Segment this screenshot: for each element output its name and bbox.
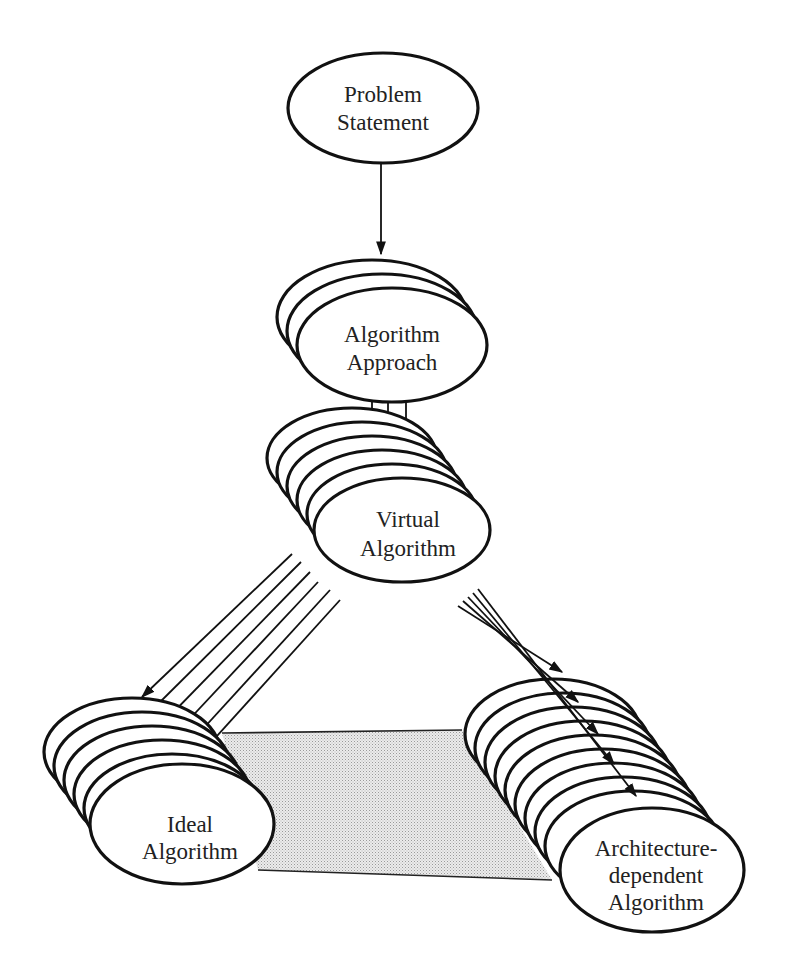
node-label: Ideal [167,812,213,837]
node-label: Problem [344,82,422,107]
node-algorithm-approach[interactable]: Algorithm Approach [277,260,487,402]
node-architecture-dependent-algorithm[interactable]: Architecture- dependent Algorithm [465,679,744,932]
node-label: Algorithm [360,536,456,561]
node-label: Approach [347,350,438,375]
node-problem-statement[interactable]: Problem Statement [288,53,478,163]
node-virtual-algorithm[interactable]: Virtual Algorithm [267,408,490,582]
node-ideal-algorithm[interactable]: Ideal Algorithm [44,698,274,884]
node-label: Algorithm [608,890,704,915]
node-label: Algorithm [344,322,440,347]
node-label: Architecture- [595,836,718,861]
node-label: Statement [337,110,430,135]
process-diagram: Problem Statement Algorithm Approach Vir… [0,0,785,977]
node-label: dependent [609,863,704,888]
node-label: Algorithm [142,839,238,864]
node-label: Virtual [376,507,440,532]
